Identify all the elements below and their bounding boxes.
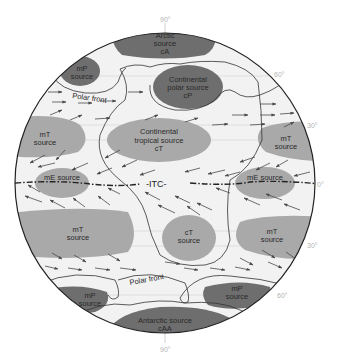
mt-northeast-label-2: source — [275, 142, 298, 151]
itc-label: -ITC- — [146, 179, 167, 189]
cp-label-3: cP — [184, 91, 193, 100]
arctic-label-3: cA — [161, 47, 170, 56]
mt-southwest-label-2: source — [67, 233, 90, 242]
mp-northwest-label-2: source — [71, 72, 94, 81]
me-west-label: mE source — [44, 173, 80, 182]
label-equator: 0° — [317, 181, 324, 188]
ct-north-label-1: Continental — [140, 127, 178, 136]
air-mass-diagram: 90° 60° 30° 0° 30° 60° 90° — [0, 0, 339, 362]
me-east-region — [235, 167, 295, 199]
label-30-south: 30° — [307, 242, 318, 249]
ct-south-label-2: source — [178, 236, 201, 245]
label-60-south: 60° — [277, 292, 288, 299]
mp-southeast-label-2: source — [226, 292, 249, 301]
mt-northwest-label-2: source — [34, 138, 57, 147]
antarctic-label-2: cAA — [158, 324, 172, 333]
ct-north-label-3: cT — [155, 144, 164, 153]
mt-southeast-label-2: source — [261, 235, 284, 244]
label-60-north: 60° — [274, 71, 285, 78]
label-90-north: 90° — [160, 16, 171, 23]
me-east-label: mE source — [247, 173, 283, 182]
label-90-south: 90° — [160, 346, 171, 353]
mp-southwest-label-2: source — [79, 299, 102, 308]
label-30-north: 30° — [307, 122, 318, 129]
